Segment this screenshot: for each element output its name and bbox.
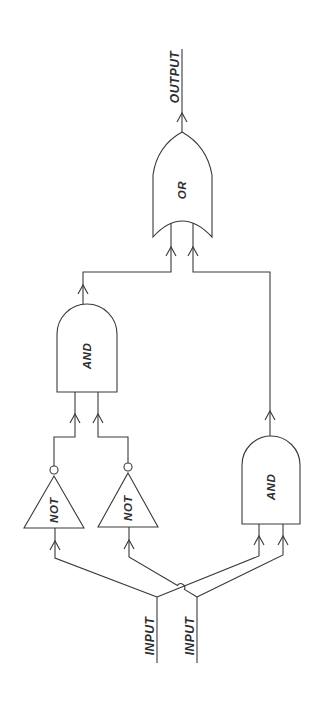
not-gate-left: NOT bbox=[24, 466, 84, 528]
and-gate-upper: AND bbox=[57, 304, 117, 392]
wire-not-right-to-and bbox=[98, 392, 128, 463]
not-gate-left-bubble bbox=[50, 466, 58, 474]
and-gate-upper-label: AND bbox=[81, 343, 93, 370]
or-gate: OR bbox=[153, 132, 212, 237]
not-gate-left-label: NOT bbox=[48, 497, 60, 523]
input-1-label: INPUT bbox=[143, 616, 157, 656]
wire-or-input-left bbox=[83, 223, 171, 304]
wire-input1-to-not-left bbox=[55, 528, 157, 597]
logic-circuit-diagram: OUTPUT OR AND NOT bbox=[0, 0, 319, 703]
and-gate-lower: AND bbox=[242, 436, 300, 524]
wire-input2-to-and-lower bbox=[197, 524, 283, 597]
wire-or-input-right bbox=[193, 223, 270, 436]
output-label: OUTPUT bbox=[168, 50, 182, 104]
wire-input1-to-and-lower bbox=[157, 524, 259, 597]
wire-not-left-to-and bbox=[54, 392, 75, 466]
not-gate-right-bubble bbox=[124, 463, 132, 471]
input-2-label: INPUT bbox=[183, 616, 197, 656]
wire-input2-to-not-right bbox=[129, 527, 197, 597]
or-gate-label: OR bbox=[176, 181, 188, 199]
not-gate-right: NOT bbox=[98, 463, 158, 527]
and-gate-lower-label: AND bbox=[265, 474, 277, 501]
circuit-svg: OUTPUT OR AND NOT bbox=[0, 0, 319, 703]
not-gate-right-label: NOT bbox=[122, 495, 134, 521]
